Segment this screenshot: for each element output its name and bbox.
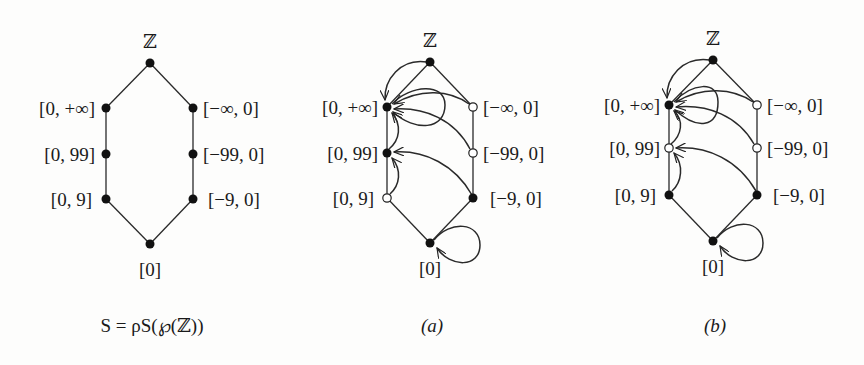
lattice-edges: [669, 60, 757, 241]
closure-arrows: [385, 62, 480, 263]
label-neg-9: [−9, 0]: [490, 188, 542, 209]
label-pos-inf: [0, +∞]: [39, 98, 95, 119]
label-pos-9: [0, 9]: [615, 185, 656, 206]
label-Z: ℤ: [143, 31, 157, 52]
panel-b: ℤ [0, +∞] [−∞, 0] [0, 99] [−99, 0] [0, 9…: [604, 28, 828, 337]
node-pos-9: [665, 191, 674, 200]
label-neg-9: [−9, 0]: [773, 185, 825, 206]
node-Z: [426, 58, 435, 67]
caption-s: S = ρS(℘(ℤ)): [100, 315, 203, 337]
node-pos-9: [383, 194, 391, 202]
caption-b: (b): [704, 315, 726, 337]
lattice-figure: ℤ [0, +∞] [−∞, 0] [0, 99] [−99, 0] [0, 9…: [0, 0, 864, 365]
label-neg-99: [−99, 0]: [203, 144, 264, 165]
node-neg-9: [753, 191, 762, 200]
node-pos-inf: [383, 103, 392, 112]
label-pos-99: [0, 99]: [609, 138, 660, 159]
label-pos-9: [0, 9]: [51, 189, 92, 210]
node-neg-9: [469, 194, 478, 203]
node-pos-99: [102, 150, 111, 159]
node-neg-inf: [469, 103, 477, 111]
node-zero: [426, 239, 435, 248]
node-pos-inf: [665, 101, 674, 110]
node-zero: [709, 237, 718, 246]
label-pos-99: [0, 99]: [327, 143, 378, 164]
node-pos-99: [383, 149, 392, 158]
label-neg-inf: [−∞, 0]: [483, 97, 539, 118]
node-neg-99: [469, 149, 477, 157]
label-pos-9: [0, 9]: [333, 188, 374, 209]
label-pos-99: [0, 99]: [44, 144, 95, 165]
label-Z: ℤ: [423, 30, 437, 51]
caption-a: (a): [421, 315, 443, 337]
node-Z: [709, 56, 718, 65]
label-neg-inf: [−∞, 0]: [203, 98, 259, 119]
panel-s: ℤ [0, +∞] [−∞, 0] [0, 99] [−99, 0] [0, 9…: [39, 31, 264, 337]
node-neg-99: [753, 144, 761, 152]
node-pos-99: [665, 144, 673, 152]
label-zero: [0]: [702, 256, 724, 277]
label-neg-inf: [−∞, 0]: [767, 95, 823, 116]
label-zero: [0]: [139, 259, 161, 280]
node-neg-inf: [753, 101, 761, 109]
label-pos-inf: [0, +∞]: [604, 95, 660, 116]
node-neg-9: [189, 195, 198, 204]
panel-a: ℤ [0, +∞] [−∞, 0] [0, 99] [−99, 0] [0, 9…: [322, 30, 544, 337]
label-Z: ℤ: [706, 28, 720, 49]
label-neg-99: [−99, 0]: [483, 143, 544, 164]
node-neg-inf: [189, 104, 198, 113]
node-Z: [146, 59, 155, 68]
lattice-edges: [106, 63, 193, 244]
label-zero: [0]: [419, 258, 441, 279]
closure-arrows: [667, 60, 763, 261]
node-zero: [146, 240, 155, 249]
node-pos-9: [102, 195, 111, 204]
node-pos-inf: [102, 104, 111, 113]
label-pos-inf: [0, +∞]: [322, 97, 378, 118]
label-neg-99: [−99, 0]: [767, 138, 828, 159]
node-neg-99: [189, 150, 198, 159]
label-neg-9: [−9, 0]: [208, 189, 260, 210]
